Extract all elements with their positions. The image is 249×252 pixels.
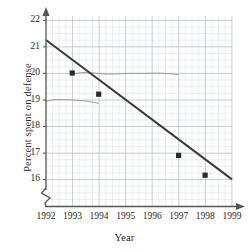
defense-spending-chart: 22 21 20 19 18 17 16 1992 1993 1994 1995…: [0, 0, 249, 252]
grid-minor-vertical: [53, 16, 226, 206]
x-axis-arrow: [236, 203, 245, 210]
x-tick-label-1997: 1997: [164, 211, 194, 221]
x-tick-label-1998: 1998: [190, 211, 220, 221]
y-axis-title: Percent spent on defense: [22, 43, 33, 193]
x-tick-label-1993: 1993: [58, 211, 88, 221]
data-point-1997: [176, 153, 181, 158]
data-point-1998: [203, 173, 208, 178]
x-tick-label-1992: 1992: [31, 211, 61, 221]
x-tick-label-1995: 1995: [111, 211, 141, 221]
y-axis-arrow: [42, 7, 49, 16]
x-tick-label-1994: 1994: [84, 211, 114, 221]
x-tick-label-1996: 1996: [137, 211, 167, 221]
x-axis-title: Year: [0, 232, 249, 243]
x-tick-label-1999: 1999: [217, 211, 247, 221]
data-point-1994: [96, 92, 101, 97]
data-point-1993: [70, 70, 75, 75]
y-tick-label-22: 22: [22, 14, 40, 24]
grid-major-vertical: [73, 16, 232, 206]
y-axis-break-symbol: [42, 188, 51, 206]
